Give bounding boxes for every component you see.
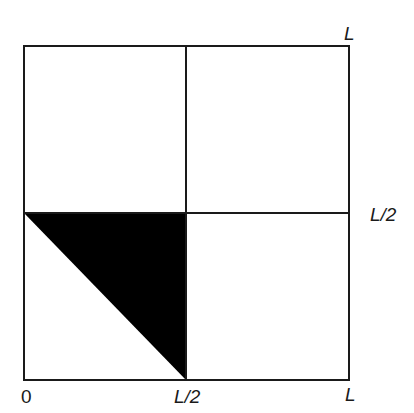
label-right-mid: L/2 xyxy=(370,204,397,225)
label-top-right: L xyxy=(344,23,355,44)
quadrant-diagram: L L/2 0 L/2 L xyxy=(0,0,414,413)
label-origin: 0 xyxy=(21,386,32,407)
shaded-triangle xyxy=(24,213,186,380)
label-bottom-right: L xyxy=(345,384,356,405)
label-bottom-mid: L/2 xyxy=(174,386,201,407)
